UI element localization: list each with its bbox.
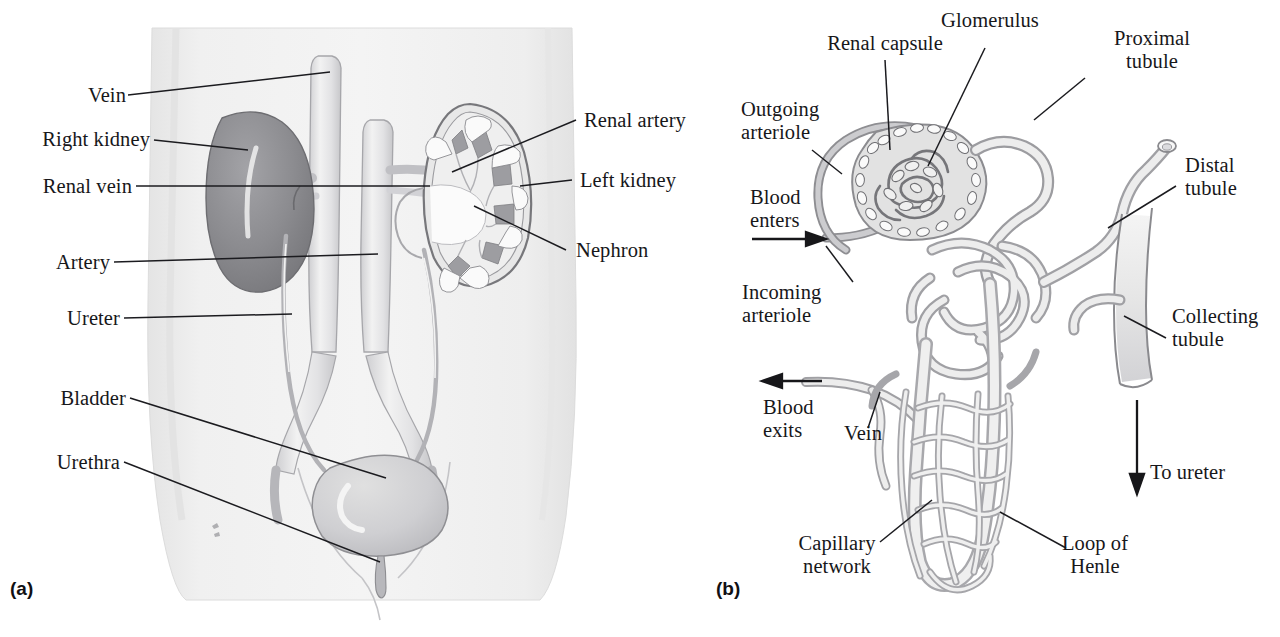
panel-label-b: (b) <box>716 578 740 600</box>
label-collecting-tubule-line2: tubule <box>1172 328 1224 351</box>
label-urethra: Urethra <box>0 451 120 474</box>
label-incoming-arteriole-line2: arteriole <box>742 304 811 327</box>
label-renal-artery: Renal artery <box>584 109 686 132</box>
label-nephron: Nephron <box>576 239 648 262</box>
label-capillary-network-line2: network <box>757 555 917 578</box>
label-blood-enters-line2: enters <box>750 209 800 232</box>
label-left-kidney: Left kidney <box>580 169 676 192</box>
renal-capsule <box>852 123 986 240</box>
label-incoming-arteriole-line1: Incoming <box>742 281 821 304</box>
label-loop-of-henle-line2: Henle <box>1030 555 1160 578</box>
label-proximal-tubule-line2: tubule <box>1082 50 1222 73</box>
label-proximal-tubule-line1: Proximal <box>1082 27 1222 50</box>
label-vein-b: Vein <box>844 422 882 445</box>
label-outgoing-arteriole-line2: arteriole <box>741 121 810 144</box>
label-renal-vein: Renal vein <box>0 175 132 198</box>
label-outgoing-arteriole-line1: Outgoing <box>741 98 819 121</box>
label-blood-exits-line1: Blood <box>763 396 814 419</box>
label-capillary-network-line1: Capillary <box>757 532 917 555</box>
label-renal-capsule: Renal capsule <box>762 32 1008 55</box>
blood-enters-arrow <box>752 232 826 246</box>
label-glomerulus: Glomerulus <box>905 9 1075 32</box>
label-to-ureter: To ureter <box>1150 461 1225 484</box>
panel-label-a: (a) <box>10 578 33 600</box>
to-ureter-arrow <box>1130 400 1144 494</box>
label-bladder: Bladder <box>0 387 126 410</box>
label-loop-of-henle-line1: Loop of <box>1030 532 1160 555</box>
label-right-kidney: Right kidney <box>0 128 150 151</box>
label-distal-tubule-line1: Distal <box>1185 154 1235 177</box>
label-vein-a: Vein <box>0 84 126 107</box>
label-blood-enters-line1: Blood <box>750 186 801 209</box>
label-ureter: Ureter <box>0 307 120 330</box>
label-distal-tubule-line2: tubule <box>1185 177 1237 200</box>
label-artery: Artery <box>0 251 110 274</box>
right-kidney <box>206 112 314 292</box>
label-collecting-tubule-line1: Collecting <box>1172 305 1258 328</box>
label-blood-exits-line2: exits <box>763 419 802 442</box>
distal-tubule <box>1044 140 1176 282</box>
urinary-system-figure: Vein Right kidney Renal vein Artery Uret… <box>0 0 1280 637</box>
